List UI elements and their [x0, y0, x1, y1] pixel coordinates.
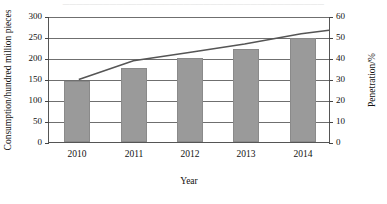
y-tick-label-left-0: 0 [38, 138, 43, 147]
x-tick-label-2011: 2011 [110, 149, 158, 159]
y-tick-label-left-50: 50 [33, 117, 42, 126]
y-axis-title-right: Penetration/% [366, 17, 378, 143]
y-tick-right [329, 122, 333, 123]
y-tick-label-left-100: 100 [29, 96, 43, 105]
y-tick-label-right-60: 60 [336, 12, 345, 21]
y-tick-right [329, 101, 333, 102]
y-tick-label-right-40: 40 [336, 54, 345, 63]
y-tick-right [329, 143, 333, 144]
y-tick-right [329, 80, 333, 81]
y-tick-left [45, 143, 49, 144]
chart-figure: ——————————————————————————————————————— … [0, 0, 387, 204]
y-axis-title-left-text: Consumption/hundred million pieces [3, 10, 13, 151]
y-tick-label-left-250: 250 [29, 33, 43, 42]
plot-area: 300 60 250 50 200 40 150 30 100 20 50 10… [48, 17, 330, 143]
y-tick-label-left-300: 300 [29, 12, 43, 21]
x-tick-label-2012: 2012 [166, 149, 214, 159]
y-tick-label-left-200: 200 [29, 54, 43, 63]
x-tick-label-2010: 2010 [53, 149, 101, 159]
y-tick-label-right-0: 0 [336, 138, 341, 147]
x-tick-label-2013: 2013 [222, 149, 270, 159]
y-tick-right [329, 38, 333, 39]
y-tick-label-right-30: 30 [336, 75, 345, 84]
x-tick-label-2014: 2014 [279, 149, 327, 159]
y-tick-right [329, 17, 333, 18]
y-tick-label-right-50: 50 [336, 33, 345, 42]
y-tick-right [329, 59, 333, 60]
penetration-line [79, 30, 329, 79]
y-tick-label-right-20: 20 [336, 96, 345, 105]
x-axis-title: Year [48, 176, 330, 187]
y-axis-title-left: Consumption/hundred million pieces [2, 17, 14, 143]
penetration-line-series [49, 17, 329, 142]
clipped-caption-strip: ——————————————————————————————————————— [0, 0, 387, 8]
y-tick-label-right-10: 10 [336, 117, 345, 126]
y-axis-title-right-text: Penetration/% [367, 53, 377, 107]
y-tick-label-left-150: 150 [29, 75, 43, 84]
